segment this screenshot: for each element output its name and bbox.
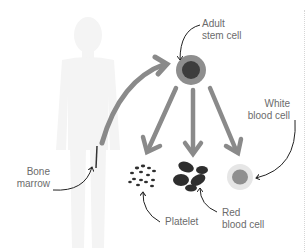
pointer-platelet-icon [143,192,160,222]
label-white-blood-cell: White blood cell [258,98,290,122]
label-stem-cell: Adult stem cell [202,18,241,42]
bone-marrow-marker [96,146,97,168]
label-rbc-line1: Red [222,207,264,219]
pointer-white-blood-cell-icon [256,120,295,178]
label-rbc-line2: blood cell [222,219,264,231]
label-stem-cell-line2: stem cell [202,30,241,42]
label-wbc-line2: blood cell [238,110,290,122]
label-bone-marrow-line2: marrow [10,178,50,190]
platelet-cells-icon [128,165,156,188]
human-silhouette-icon [56,17,120,248]
label-bone-marrow: Bone marrow [10,166,50,190]
label-bone-marrow-line1: Bone [10,166,50,178]
label-platelet: Platelet [165,216,198,228]
red-blood-cells-icon [173,160,208,192]
dotted-divider [304,10,305,252]
label-red-blood-cell: Red blood cell [222,207,264,231]
arrows-differentiation-icon [143,88,241,154]
pointer-stem-cell-icon [180,25,200,60]
white-blood-cell-icon [227,164,253,190]
pointer-red-blood-cell-icon [200,188,217,212]
stem-cell-diagram: Adult stem cell White blood cell Bone ma… [0,0,307,252]
label-wbc-line1: White [258,98,290,110]
label-stem-cell-line1: Adult [202,18,241,30]
